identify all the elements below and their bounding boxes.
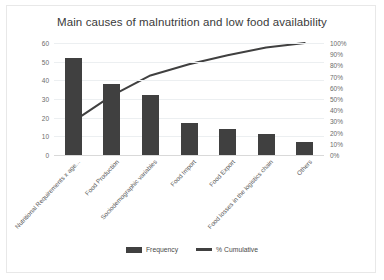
y2-axis-tick-label: 70% (330, 73, 343, 80)
y2-axis-tick-label: 40% (330, 107, 343, 114)
gridline (54, 118, 324, 119)
y-axis-tick-label: 20 (42, 114, 49, 121)
y2-axis-tick-label: 60% (330, 84, 343, 91)
gridline (54, 155, 324, 156)
gridline (54, 62, 324, 63)
chart-container: Main causes of malnutrition and low food… (6, 5, 376, 273)
plot-area: 01020304050600%10%20%30%40%50%60%70%80%9… (54, 43, 324, 155)
legend-item-cumulative: % Cumulative (196, 246, 258, 253)
category-axis-labels: Nutritional Requirements x age...Food Pr… (7, 158, 377, 233)
y2-axis-tick-label: 100% (330, 40, 347, 47)
category-label: Food Export (207, 158, 236, 188)
y-axis-tick-label: 10 (42, 133, 49, 140)
gridline (54, 80, 324, 81)
gridline (54, 99, 324, 100)
y2-axis-tick-label: 80% (330, 62, 343, 69)
chart-legend: Frequency % Cumulative (7, 246, 377, 253)
y2-axis-tick-label: 20% (330, 129, 343, 136)
legend-label-frequency: Frequency (146, 246, 178, 253)
bar (258, 134, 275, 155)
bar (65, 58, 82, 155)
bar (296, 142, 313, 155)
bar (142, 95, 159, 155)
legend-item-frequency: Frequency (126, 246, 178, 253)
y-axis-tick-label: 60 (42, 40, 49, 47)
bar (103, 84, 120, 155)
y-axis-tick-label: 40 (42, 77, 49, 84)
category-label: Nutritional Requirements x age... (14, 158, 82, 230)
bar (181, 123, 198, 155)
chart-title: Main causes of malnutrition and low food… (7, 16, 377, 28)
y2-axis-tick-label: 50% (330, 96, 343, 103)
legend-line-swatch-icon (196, 248, 212, 251)
category-label: Others (295, 158, 313, 177)
gridline (54, 43, 324, 44)
category-label: Food losses in the logistics chain (206, 158, 274, 230)
bar (219, 129, 236, 155)
category-label: Food Import (169, 158, 197, 188)
y2-axis-tick-label: 90% (330, 51, 343, 58)
y2-axis-tick-label: 10% (330, 140, 343, 147)
legend-label-cumulative: % Cumulative (216, 246, 258, 253)
y-axis-tick-label: 50 (42, 58, 49, 65)
legend-bar-swatch-icon (126, 247, 142, 253)
y2-axis-tick-label: 30% (330, 118, 343, 125)
y-axis-tick-label: 30 (42, 96, 49, 103)
category-label: Food Production (83, 158, 120, 197)
